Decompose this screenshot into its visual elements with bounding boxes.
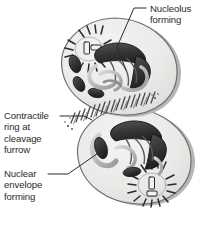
label-nucleolus-forming: Nucleolus forming xyxy=(150,3,191,26)
figure-canvas: Nucleolus forming Contractile ring at cl… xyxy=(0,0,209,228)
label-contractile-ring: Contractile ring at cleavage furrow xyxy=(4,110,49,156)
label-nuclear-envelope-forming: Nuclear envelope forming xyxy=(4,168,42,202)
